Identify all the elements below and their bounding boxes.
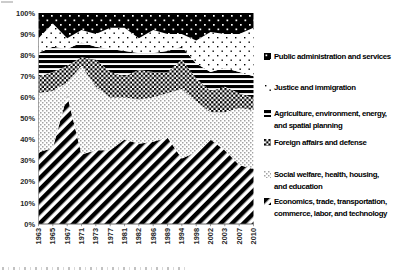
y-tick-label: 40% [20,135,35,144]
x-tick-label: 2007 [235,228,244,244]
y-tick-label: 90% [20,30,35,39]
agriculture-swatch-icon [264,110,271,117]
x-tick-label: 1998 [192,228,201,244]
y-tick-label: 50% [20,114,35,123]
legend-item-economics: Economics, trade, transportation,commerc… [264,196,387,220]
legend-label-economics: Economics, trade, transportation,commerc… [274,196,387,220]
figure: 0%10%20%30%40%50%60%70%80%90%100%1963196… [0,0,406,272]
social-swatch-icon [264,171,271,178]
x-tick-label: 1982 [134,228,143,244]
y-tick-label: 70% [20,72,35,81]
x-tick-label: 2003 [220,228,229,244]
legend-label-public: Public administration and services [274,51,391,63]
legend-item-justice: Justice and immigration [264,82,356,94]
x-tick-label: 1973 [91,228,100,244]
x-tick-label: 1977 [106,228,115,244]
foreign-swatch-icon [264,139,271,146]
justice-swatch-icon [264,84,271,91]
x-tick-label: 1981 [120,228,129,244]
stacked-area-chart: 0%10%20%30%40%50%60%70%80%90%100%1963196… [0,0,262,272]
truncated-caption-fragment [2,267,187,270]
y-tick-label: 30% [20,156,35,165]
y-tick-label: 80% [20,51,35,60]
x-tick-label: 2002 [206,228,215,244]
page-edge-artifact [1,1,13,3]
legend-item-foreign: Foreign affairs and defense [264,137,366,149]
legend-item-public: Public administration and services [264,51,391,63]
legend-item-social: Social welfare, health, housing,and educ… [264,169,379,193]
legend-item-agriculture: Agriculture, environment, energy,and spa… [264,108,387,132]
x-tick-label: 1971 [77,228,86,244]
x-tick-label: 1963 [34,228,43,244]
legend-label-justice: Justice and immigration [274,82,356,94]
x-tick-label: 1986 [149,228,158,244]
y-tick-label: 20% [20,177,35,186]
y-tick-label: 60% [20,93,35,102]
y-tick-label: 100% [16,9,35,18]
x-tick-label: 1965 [48,228,57,244]
legend-label-social: Social welfare, health, housing,and educ… [274,169,379,193]
legend-label-foreign: Foreign affairs and defense [274,137,366,149]
y-tick-label: 10% [20,199,35,208]
public-swatch-icon [264,53,271,60]
x-tick-label: 1994 [177,227,186,244]
y-tick-label: 0% [24,220,35,229]
x-tick-label: 2010 [249,228,258,244]
x-tick-label: 1967 [63,228,72,244]
chart-legend: Public administration and servicesJustic… [262,0,406,272]
legend-label-agriculture: Agriculture, environment, energy,and spa… [274,108,387,132]
x-tick-label: 1989 [163,228,172,244]
economics-swatch-icon [264,198,271,205]
